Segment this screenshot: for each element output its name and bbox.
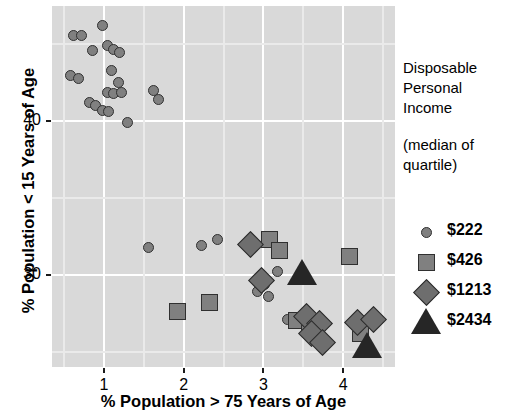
data-point-circle xyxy=(122,117,133,128)
legend-subtitle-line-1: (median of xyxy=(403,135,515,155)
legend-keys: $222$426$1213$2434 xyxy=(403,217,515,337)
legend-glyph-triangle xyxy=(411,308,441,334)
data-point-circle xyxy=(196,240,207,251)
legend-row-diamond[interactable]: $1213 xyxy=(403,277,515,307)
legend-key-triangle-icon xyxy=(409,307,443,337)
legend-title-line-2: Personal xyxy=(403,78,515,98)
gridline-x-minor-0.5 xyxy=(63,6,65,367)
data-point-circle xyxy=(87,45,98,56)
data-point-circle xyxy=(116,87,127,98)
x-tick-mark-4 xyxy=(342,368,344,373)
data-point-triangle xyxy=(352,332,382,358)
legend-row-triangle[interactable]: $2434 xyxy=(403,307,515,337)
x-tick-mark-1 xyxy=(103,368,105,373)
data-point-circle xyxy=(73,73,84,84)
legend-label-triangle: $2434 xyxy=(447,311,492,329)
legend-title-line-3: Income xyxy=(403,98,515,118)
data-point-circle xyxy=(106,65,117,76)
data-point-circle xyxy=(97,20,108,31)
gridline-y-minor-25 xyxy=(52,351,395,353)
gridline-x-3 xyxy=(262,6,264,367)
y-tick-mark-30 xyxy=(46,274,51,276)
gridline-x-minor-2.5 xyxy=(223,6,225,367)
legend-key-diamond-icon xyxy=(409,277,443,307)
gridline-x-1 xyxy=(103,6,105,367)
legend-glyph-square xyxy=(418,254,435,271)
legend-title-block: Disposable Personal Income (median of qu… xyxy=(403,58,515,175)
data-point-square xyxy=(341,248,358,265)
legend-label-square: $426 xyxy=(447,251,483,269)
data-point-circle xyxy=(212,234,223,245)
data-point-square xyxy=(271,242,288,259)
x-axis-label: % Population > 75 Years of Age xyxy=(52,392,395,411)
legend-key-circle-icon xyxy=(409,217,443,247)
legend-subtitle-line-2: quartile) xyxy=(403,155,515,175)
legend-row-square[interactable]: $426 xyxy=(403,247,515,277)
data-point-circle xyxy=(143,242,154,253)
gridline-x-minor-1.5 xyxy=(143,6,145,367)
scatter-plot-figure: 12343040 % Population > 75 Years of Age … xyxy=(0,0,515,417)
legend-label-circle: $222 xyxy=(447,221,483,239)
data-point-triangle xyxy=(287,259,317,285)
legend-label-diamond: $1213 xyxy=(447,281,492,299)
legend-glyph-diamond xyxy=(413,279,440,306)
data-point-circle xyxy=(103,106,114,117)
data-point-circle xyxy=(114,47,125,58)
legend-key-square-icon xyxy=(409,247,443,277)
gridline-x-minor-4.5 xyxy=(382,6,384,367)
x-tick-mark-2 xyxy=(183,368,185,373)
gridline-x-4 xyxy=(342,6,344,367)
plot-panel xyxy=(52,6,395,367)
data-point-square xyxy=(201,294,218,311)
y-axis-label: % Population < 15 Years of Age xyxy=(19,10,38,371)
data-point-circle xyxy=(263,291,274,302)
legend-row-circle[interactable]: $222 xyxy=(403,217,515,247)
x-tick-mark-3 xyxy=(262,368,264,373)
legend-glyph-circle xyxy=(421,227,432,238)
data-point-square xyxy=(169,303,186,320)
data-point-diamond xyxy=(237,231,264,258)
y-tick-mark-40 xyxy=(46,120,51,122)
data-point-circle xyxy=(76,30,87,41)
data-point-circle xyxy=(153,94,164,105)
legend-title-line-1: Disposable xyxy=(403,58,515,78)
gridline-y-minor-35 xyxy=(52,197,395,199)
